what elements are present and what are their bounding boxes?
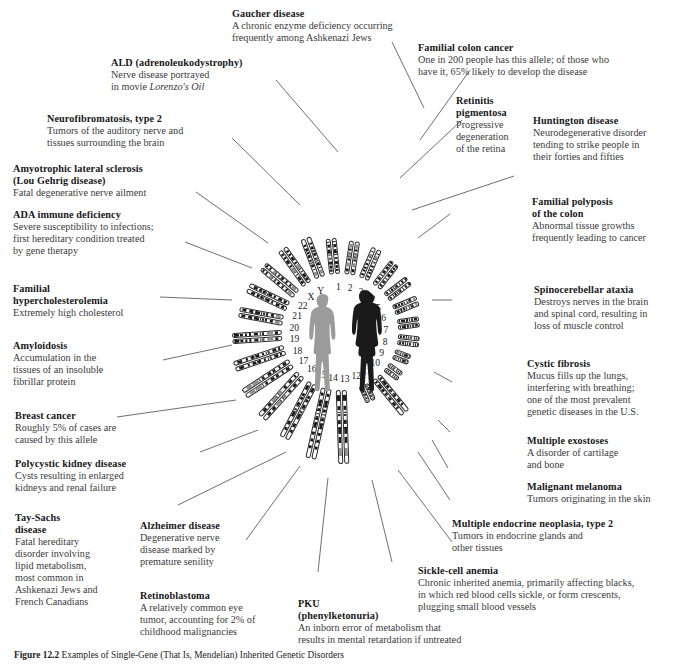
annotation-line: Fatal degenerative nerve ailment [13,187,233,199]
annotation-line: tumor, accounting for 2% of [140,614,320,626]
chromosome-pair [232,330,283,345]
annotation-line: one of the most prevalent [527,394,680,406]
chromosome-pair [397,334,420,348]
annotation-title: Familial polyposis [532,196,680,208]
annotation-line: disorder involving [15,548,150,560]
annotation-gaucher: Gaucher disease A chronic enzyme deficie… [232,8,447,44]
annotation-line: of the retina [456,143,548,155]
annotation-amyloidosis: Amyloidosis Accumulation in the tissues … [13,340,163,388]
chromosome-pair [325,238,340,275]
chromosome-pair [344,240,360,275]
annotation-title: Neurofibromatosis, type 2 [47,113,282,125]
annotation-title: Amyotrophic lateral sclerosis [13,163,233,175]
annotation-title: Huntington disease [533,115,680,127]
annotation-title: Polycystic kidney disease [15,458,180,470]
annotation-line: loss of muscle control [534,320,680,332]
annotation-line: Destroys nerves in the brain [534,296,680,308]
annotation-colon-cancer: Familial colon cancer One in 200 people … [418,42,680,78]
annotation-hypercholesterolemia: Familial hypercholesterolemia Extremely … [13,283,178,319]
annotation-line: Severe susceptibility to infections; [13,221,228,233]
annotation-line: tending to strike people in [533,139,680,151]
figure-caption-text: Examples of Single-Gene (That Is, Mendel… [61,650,343,660]
annotation-title-2: pigmentosa [456,107,548,119]
annotation-line: Abnormal tissue growths [532,220,680,232]
annotation-title: Breast cancer [15,410,170,422]
chromosome-pair [397,316,420,330]
annotation-alzheimer: Alzheimer disease Degenerative nerve dis… [140,520,285,568]
chromosome-number-8: 8 [383,335,388,346]
annotation-breast-cancer: Breast cancer Roughly 5% of cases are ca… [15,410,170,446]
chromatid [342,390,350,464]
annotation-title: Cystic fibrosis [527,358,680,370]
annotation-line: A relatively common eye [140,602,320,614]
annotation-line: Chronic inherited anemia, primarily affe… [418,577,678,589]
annotation-line: childhood malignancies [140,626,320,638]
annotation-line: Ashkenazi Jews and [15,584,150,596]
annotation-line: Nerve disease portrayed [111,69,326,81]
annotation-cystic-fibrosis: Cystic fibrosis Mucus fills up the lungs… [527,358,680,418]
annotation-line: French Canadians [15,596,150,608]
annotation-line: disease marked by [140,544,285,556]
annotation-line: One in 200 people has this allele; of th… [418,54,680,66]
annotation-line: Fatal hereditary [15,536,150,548]
annotation-line: Neurodegenerative disorder [533,127,680,139]
male-silhouette [306,292,340,400]
annotation-line: in which red blood cells sickle, or form… [418,589,678,601]
annotation-line: first hereditary condition treated [13,233,228,245]
annotation-title: Multiple exostoses [527,435,677,447]
annotation-line: premature senility [140,556,285,568]
annotation-line: frequently leading to cancer [532,232,680,244]
annotation-line: and spinal cord, resulting in [534,308,680,320]
annotation-line: interfering with breathing; [527,382,680,394]
annotation-line: Roughly 5% of cases are [15,422,170,434]
annotation-huntington: Huntington disease Neurodegenerative dis… [533,115,680,163]
annotation-line: caused by this allele [15,434,170,446]
annotation-line: most common in [15,572,150,584]
female-silhouette [348,288,382,400]
annotation-line: Progressive [456,119,548,131]
chromosome-pair [392,348,412,365]
figure-caption-label: Figure 12.2 [14,650,59,660]
annotation-title-2: (Lou Gehrig disease) [13,175,233,187]
chromosome-number-18: 18 [293,344,303,355]
annotation-line: Cysts resulting in enlarged [15,470,180,482]
annotation-line: Mucus fills up the lungs, [527,370,680,382]
figure-caption: Figure 12.2 Examples of Single-Gene (Tha… [14,650,344,660]
annotation-polyposis: Familial polyposis of the colon Abnormal… [532,196,680,244]
annotation-ada: ADA immune deficiency Severe susceptibil… [13,209,228,257]
chromosome-number-21: 21 [292,310,302,321]
chromosome-pair [336,390,350,464]
annotation-line: Tumors in endocrine glands and [452,530,680,542]
annotation-line: frequently among Ashkenazi Jews [232,32,447,44]
figure-canvas: 12345678910111213141516171819202122XY Ch… [0,0,680,664]
annotation-title: Familial colon cancer [418,42,680,54]
annotation-line: their forties and fifties [533,151,680,163]
annotation-line: have it, 65% likely to develop the disea… [418,66,680,78]
annotation-title: Spinocerebellar ataxia [534,284,680,296]
chromosome-number-1: 1 [336,281,341,292]
annotation-title-2: of the colon [532,208,680,220]
annotation-line: and bone [527,459,677,471]
annotation-line: A chronic enzyme deficiency occurring [232,20,447,32]
annotation-polycystic-kidney: Polycystic kidney disease Cysts resultin… [15,458,180,494]
annotation-title: Sickle-cell anemia [418,565,678,577]
annotation-als: Amyotrophic lateral sclerosis (Lou Gehri… [13,163,233,199]
annotation-title: Amyloidosis [13,340,163,352]
annotation-melanoma: Malignant melanoma Tumors originating in… [527,481,680,505]
chromosome-pair [238,307,284,327]
annotation-sickle-cell: Sickle-cell anemia Chronic inherited ane… [418,565,678,613]
chromosome-number-7: 7 [383,323,388,334]
annotation-line: Degenerative nerve [140,532,285,544]
annotation-line: An inborn error of metabolism that [298,622,548,634]
annotation-title-2: hypercholesterolemia [13,295,178,307]
annotation-neurofibromatosis: Neurofibromatosis, type 2 Tumors of the … [47,113,282,149]
annotation-exostoses: Multiple exostoses A disorder of cartila… [527,435,677,471]
annotation-title: Gaucher disease [232,8,447,20]
annotation-line: degeneration [456,131,548,143]
chromosome-number-20: 20 [290,321,300,332]
annotation-line: Tumors of the auditory nerve and [47,125,282,137]
annotation-line: tissues of an insoluble [13,364,163,376]
annotation-line: fibrillar protein [13,376,163,388]
annotation-line: results in mental retardation if untreat… [298,634,548,646]
chromosome-pair [383,362,403,381]
